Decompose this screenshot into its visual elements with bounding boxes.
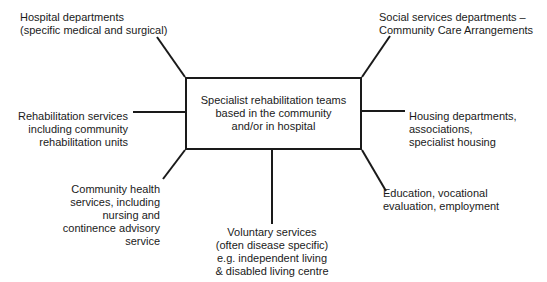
connector-education xyxy=(362,150,386,191)
node-education: Education, vocational evaluation, employ… xyxy=(383,187,499,213)
node-education-line-1: Education, vocational xyxy=(383,187,499,200)
node-housing-line-1: Housing departments, xyxy=(409,110,517,123)
central-line-1: Specialist rehabilitation teams xyxy=(201,94,347,107)
connector-community xyxy=(163,150,185,179)
node-voluntary-line-1: Voluntary services xyxy=(202,226,342,239)
node-voluntary-line-2: (often disease specific) xyxy=(202,239,342,252)
node-community-line-1: Community health xyxy=(63,183,160,196)
central-line-2: based in the community xyxy=(201,107,347,120)
node-social-line-1: Social services departments – xyxy=(379,11,533,24)
node-rehabilitation-services: Rehabilitation services including commun… xyxy=(18,110,128,149)
node-housing-line-3: specialist housing xyxy=(409,136,517,149)
node-community-health: Community health services, including nur… xyxy=(63,183,160,248)
node-hospital-departments: Hospital departments (specific medical a… xyxy=(20,11,167,37)
node-rehab-line-1: Rehabilitation services xyxy=(18,110,128,123)
node-housing-departments: Housing departments, associations, speci… xyxy=(409,110,517,149)
node-hospital-line-2: (specific medical and surgical) xyxy=(20,24,167,37)
node-voluntary-line-4: & disabled living centre xyxy=(202,265,342,278)
node-voluntary-line-3: e.g. independent living xyxy=(202,252,342,265)
node-housing-line-2: associations, xyxy=(409,123,517,136)
node-community-line-4: continence advisory xyxy=(63,222,160,235)
node-hospital-line-1: Hospital departments xyxy=(20,11,167,24)
node-social-services: Social services departments – Community … xyxy=(379,11,533,37)
node-community-line-5: service xyxy=(63,235,160,248)
connector-social xyxy=(362,36,390,77)
node-rehab-line-2: including community xyxy=(18,123,128,136)
node-community-line-3: nursing and xyxy=(63,209,160,222)
node-community-line-2: services, including xyxy=(63,196,160,209)
node-social-line-2: Community Care Arrangements xyxy=(379,24,533,37)
central-box-specialist-teams: Specialist rehabilitation teams based in… xyxy=(185,77,362,150)
node-rehab-line-3: rehabilitation units xyxy=(18,136,128,149)
connector-hospital xyxy=(157,37,185,77)
central-box-text: Specialist rehabilitation teams based in… xyxy=(201,94,347,133)
node-voluntary-services: Voluntary services (often disease specif… xyxy=(202,226,342,278)
central-line-3: and/or in hospital xyxy=(201,120,347,133)
node-education-line-2: evaluation, employment xyxy=(383,200,499,213)
